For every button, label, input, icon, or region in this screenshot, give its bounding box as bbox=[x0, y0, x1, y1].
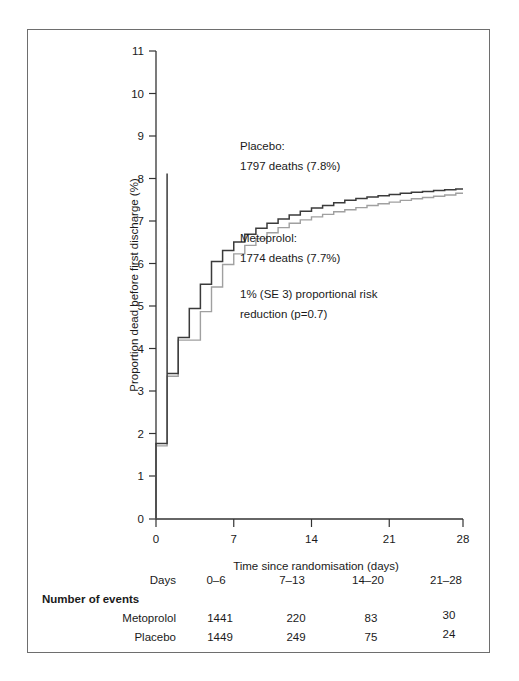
kaplan-meier-chart: 11 10 9 8 7 6 5 4 3 2 1 0 bbox=[28, 30, 491, 654]
table-interval-3: 21–28 bbox=[430, 574, 462, 586]
y-tick-label-0: 0 bbox=[138, 513, 144, 525]
table-cell-placebo-1: 249 bbox=[286, 631, 305, 643]
number-of-events-table: Days 0–6 7–13 14–20 21–28 Number of even… bbox=[42, 574, 462, 643]
table-cell-placebo-2: 75 bbox=[365, 631, 378, 643]
table-cell-metoprolol-0: 1441 bbox=[207, 612, 233, 624]
table-section-label: Number of events bbox=[42, 593, 139, 605]
table-days-header: Days bbox=[150, 574, 176, 586]
table-interval-0: 0–6 bbox=[206, 574, 225, 586]
metoprolol-step-curve bbox=[156, 193, 463, 519]
table-cell-placebo-0: 1449 bbox=[207, 631, 233, 643]
annotation-placebo-label: Placebo: bbox=[240, 140, 285, 152]
y-tick-label-10: 10 bbox=[131, 88, 144, 100]
table-interval-2: 14–20 bbox=[352, 574, 384, 586]
y-tick-label-11: 11 bbox=[132, 45, 144, 57]
table-row-label-placebo: Placebo bbox=[134, 631, 176, 643]
table-cell-metoprolol-2: 83 bbox=[365, 612, 378, 624]
x-tick-label-7: 7 bbox=[231, 533, 237, 545]
x-axis-ticks: 0 7 14 21 28 bbox=[153, 519, 470, 545]
x-tick-label-14: 14 bbox=[305, 533, 318, 545]
x-tick-label-21: 21 bbox=[383, 533, 396, 545]
placebo-step-curve bbox=[156, 174, 463, 519]
figure-border: 11 10 9 8 7 6 5 4 3 2 1 0 bbox=[27, 29, 490, 653]
y-tick-label-2: 2 bbox=[138, 428, 144, 440]
annotation-risk-reduction-line2: reduction (p=0.7) bbox=[240, 308, 327, 320]
x-tick-label-28: 28 bbox=[457, 533, 470, 545]
table-row-label-metoprolol: Metoprolol bbox=[122, 612, 176, 624]
table-cell-metoprolol-3: 30 bbox=[443, 609, 456, 621]
table-cell-metoprolol-1: 220 bbox=[286, 612, 305, 624]
annotation-placebo-deaths: 1797 deaths (7.8%) bbox=[240, 160, 341, 172]
x-axis-title: Time since randomisation (days) bbox=[233, 560, 399, 572]
y-axis-title: Proportion dead before first discharge (… bbox=[128, 178, 140, 392]
y-tick-label-9: 9 bbox=[138, 130, 144, 142]
table-cell-placebo-3: 24 bbox=[443, 628, 456, 640]
annotation-risk-reduction-line1: 1% (SE 3) proportional risk bbox=[240, 288, 378, 300]
table-interval-1: 7–13 bbox=[279, 574, 305, 586]
y-tick-label-1: 1 bbox=[138, 470, 144, 482]
x-tick-label-0: 0 bbox=[153, 533, 159, 545]
annotation-metoprolol-deaths: 1774 deaths (7.7%) bbox=[240, 252, 341, 264]
annotation-metoprolol-label: Metoprolol: bbox=[240, 232, 297, 244]
